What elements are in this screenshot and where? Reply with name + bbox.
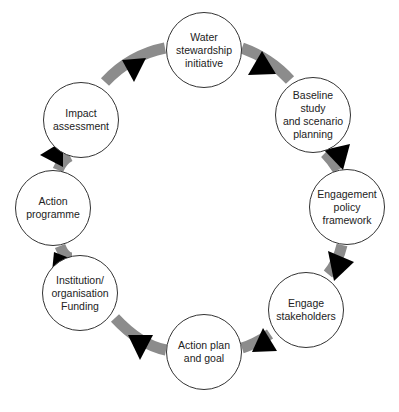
node-impact-assessment: Impact assessment xyxy=(43,82,119,158)
node-label: Engage stakeholders xyxy=(276,297,336,323)
node-label: Action programme xyxy=(26,195,80,221)
node-label: Impact assessment xyxy=(53,107,109,133)
node-label: Water stewardship initiative xyxy=(176,31,232,70)
node-action-plan: Action plan and goal xyxy=(166,314,242,390)
node-label: Engagement policy framework xyxy=(317,188,377,227)
node-action-programme: Action programme xyxy=(15,170,91,246)
node-baseline-study: Baseline study and scenario planning xyxy=(275,77,351,153)
node-engagement-policy: Engagement policy framework xyxy=(309,169,385,245)
node-engage-stakeholders: Engage stakeholders xyxy=(268,272,344,348)
node-label: Baseline study and scenario planning xyxy=(283,89,343,141)
node-label: Institution/ organisation Funding xyxy=(51,274,108,313)
node-institution-funding: Institution/ organisation Funding xyxy=(42,255,118,331)
node-label: Action plan and goal xyxy=(178,339,230,365)
node-water-stewardship: Water stewardship initiative xyxy=(166,12,242,88)
